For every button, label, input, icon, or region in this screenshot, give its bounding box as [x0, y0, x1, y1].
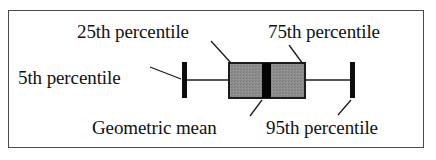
label-25th-percentile: 25th percentile: [77, 22, 189, 41]
label-95th-percentile: 95th percentile: [266, 118, 378, 137]
leader-line-25th: [211, 41, 231, 63]
right-whisker-cap: [350, 62, 355, 98]
leader-line-5th: [150, 67, 181, 79]
leader-line-geometric-mean: [250, 100, 262, 116]
label-geometric-mean: Geometric mean: [92, 118, 217, 137]
label-75th-percentile: 75th percentile: [268, 22, 380, 41]
leader-line-75th: [289, 45, 303, 64]
geometric-mean-bar: [262, 63, 271, 98]
leader-line-95th: [338, 100, 351, 115]
left-whisker-cap: [182, 62, 187, 98]
box-plot-legend-figure: 25th percentile 75th percentile 5th perc…: [0, 0, 436, 160]
label-5th-percentile: 5th percentile: [18, 68, 121, 87]
